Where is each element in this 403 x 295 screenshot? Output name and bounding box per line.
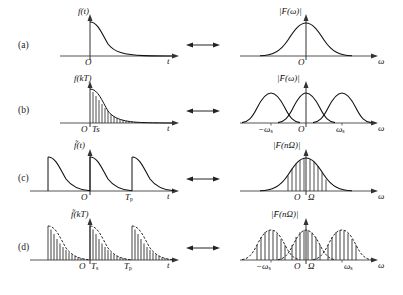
panel-b-left-ylabel: f(kT) [74,73,92,83]
panel-a-left [60,8,180,63]
equivalence-arrow-a [186,36,220,54]
panel-d-left-xlabel: t [167,260,170,270]
panel-d-right-ylabel: |F̄(nΩ)| [271,209,298,219]
panel-b-right-origin: O [298,124,305,134]
tick-tp-sub: p [130,196,133,202]
panel-b-right-ylabel: |F̄(ω)| [277,73,300,83]
panel-d-right-tick-neg-ws: −ωs [256,261,271,271]
panel-d-left-origin: O [79,261,86,271]
tick-neg-ws-text: −ω [256,261,268,271]
equivalence-arrow-c [186,170,220,188]
panel-a-right-xlabel: ω [378,56,384,66]
equivalence-arrow-d [186,239,220,257]
panel-b-right-tick-ws: ωs [336,124,345,134]
panel-a-left-ylabel: f(t) [78,6,89,16]
tick-neg-ws-text: −ω [258,124,270,134]
row-label-a: (a) [18,40,29,50]
panel-c-right-tick-omega: Ω [308,192,315,202]
tick-tp-sub: p [129,265,132,271]
panel-a-right-ylabel: |F(ω)| [279,6,302,16]
row-label-c: (c) [18,173,29,183]
ylabel-text: |F̄(nΩ)| [271,209,298,219]
tick-ts-text: Ts [92,124,100,134]
panel-c-left-ylabel: f̃(t) [74,140,85,150]
tick-neg-ws-sub: s [268,265,270,271]
panel-b-right-xlabel: ω [378,123,384,133]
ylabel-text: f(kT) [74,73,92,83]
panel-a-right-origin: O [298,57,305,67]
panel-b-left-tick-ts: Ts [92,124,100,134]
panel-d-right-tick-ws: ωs [344,261,353,271]
figure-canvas: (a) f(t) O t |F(ω)| O [0,0,403,295]
panel-d-right-xlabel: ω [378,260,384,270]
panel-a-left-xlabel: t [167,56,170,66]
panel-c-left [30,143,180,198]
tick-ws-sub: s [350,265,352,271]
tick-neg-ws-sub: s [270,128,272,134]
ylabel-text: f̃(t) [74,140,85,150]
row-label-d: (d) [18,242,29,252]
panel-d-left-ylabel: f̃(kT) [71,209,89,219]
panel-c-right-ylabel: |F(nΩ)| [273,140,300,150]
ylabel-text: |F̄(ω)| [277,73,300,83]
tick-ts-sub: s [96,265,98,271]
panel-c-left-origin: O [81,192,88,202]
ylabel-text: f(t) [78,6,89,16]
panel-d-left-tick-ts: Ts [91,261,98,271]
panel-b-right [240,75,380,130]
panel-a-right [240,8,380,63]
ylabel-text: |F(ω)| [279,6,302,16]
panel-d-left-tick-tp: Tp [124,261,132,271]
panel-b-right-tick-neg-ws: −ωs [258,124,273,134]
ylabel-text: f̃(kT) [71,209,89,219]
panel-d-right-origin: O [294,261,301,271]
panel-b-left-xlabel: t [167,123,170,133]
panel-c-left-xlabel: t [167,191,170,201]
panel-c-right [240,143,380,198]
panel-d-right-tick-omega: Ω [308,261,315,271]
panel-d-right [240,212,380,267]
panel-d-left [30,212,180,267]
tick-ws-sub: s [342,128,344,134]
panel-b-left [60,75,180,130]
row-label-b: (b) [18,105,29,115]
panel-c-left-tick-tp: Tp [125,192,133,202]
panel-b-left-origin: O [81,124,88,134]
panel-a-left-origin: O [85,57,92,67]
ylabel-text: |F(nΩ)| [273,140,300,150]
equivalence-arrow-b [186,102,220,120]
panel-c-right-origin: O [294,192,301,202]
panel-c-right-xlabel: ω [378,191,384,201]
